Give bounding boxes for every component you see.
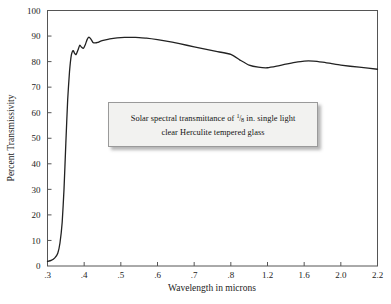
y-tick-label-10: 10 (32, 236, 42, 246)
x-tick-label-1.6: 1.6 (299, 270, 311, 280)
x-tick-label-2.2: 2.2 (372, 270, 383, 280)
x-tick-label-.3: .3 (44, 270, 51, 280)
x-axis-tick-labels: .3.4.5.6.7.81.21.62.02.2 (44, 270, 383, 280)
annotation-textbox: Solar spectral transmittance of 1/8 in. … (108, 102, 318, 147)
x-tick-label-2.0: 2.0 (335, 270, 347, 280)
y-tick-label-0: 0 (36, 261, 41, 271)
y-axis-title: Percent Transmissivity (6, 94, 16, 181)
annotation-line-1-post: in. single light (244, 114, 295, 123)
y-tick-label-80: 80 (32, 57, 42, 67)
x-tick-label-.7: .7 (191, 270, 198, 280)
chart-container: 0102030405060708090100 .3.4.5.6.7.81.21.… (0, 0, 391, 304)
y-axis-tick-labels: 0102030405060708090100 (27, 6, 41, 272)
annotation-line-1: Solar spectral transmittance of 1/8 in. … (109, 110, 317, 127)
fraction-one-eighth: 1/8 (237, 110, 245, 127)
y-tick-label-30: 30 (32, 185, 42, 195)
annotation-line-2: clear Herculite tempered glass (109, 127, 317, 140)
x-tick-label-1.2: 1.2 (262, 270, 273, 280)
y-tick-label-20: 20 (32, 210, 42, 220)
x-tick-label-.4: .4 (81, 270, 88, 280)
x-tick-label-.6: .6 (154, 270, 161, 280)
y-tick-label-100: 100 (27, 6, 41, 16)
annotation-line-1-pre: Solar spectral transmittance of (131, 114, 237, 123)
y-tick-label-40: 40 (32, 159, 42, 169)
x-axis-title: Wavelength in microns (168, 283, 256, 293)
y-tick-label-90: 90 (32, 31, 42, 41)
x-tick-label-.5: .5 (117, 270, 124, 280)
y-tick-label-50: 50 (32, 133, 42, 143)
y-tick-label-70: 70 (32, 82, 42, 92)
transmissivity-line-chart: 0102030405060708090100 .3.4.5.6.7.81.21.… (0, 0, 391, 304)
y-tick-label-60: 60 (32, 108, 42, 118)
fraction-denominator: 8 (241, 116, 244, 123)
x-tick-label-.8: .8 (227, 270, 234, 280)
